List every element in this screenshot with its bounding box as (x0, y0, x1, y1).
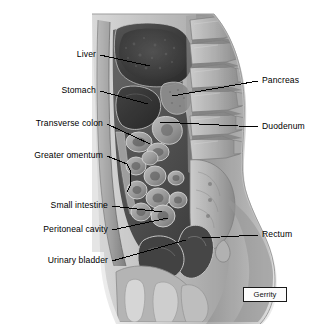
label-pancreas: Pancreas (262, 76, 299, 85)
label-rectum: Rectum (262, 230, 292, 239)
label-small-intestine-text: Small intestine (51, 200, 108, 210)
anatomy-figure: Liver Stomach Transverse colon Greater o… (0, 0, 326, 328)
artist-signature-text: Gerrity (254, 291, 277, 299)
label-small-intestine: Small intestine (0, 201, 108, 210)
label-stomach: Stomach (0, 86, 96, 95)
label-urinary-bladder-text: Urinary bladder (48, 255, 108, 265)
label-duodenum-text: Duodenum (262, 121, 305, 131)
label-greater-omentum-text: Greater omentum (34, 150, 103, 160)
texture-grain (92, 14, 278, 324)
label-liver: Liver (0, 50, 96, 59)
label-stomach-text: Stomach (61, 85, 96, 95)
label-rectum-text: Rectum (262, 229, 292, 239)
label-peritoneal-cavity-text: Peritoneal cavity (43, 224, 108, 234)
label-greater-omentum: Greater omentum (0, 151, 103, 160)
label-transverse-colon-text: Transverse colon (36, 118, 103, 128)
label-peritoneal-cavity: Peritoneal cavity (0, 225, 108, 234)
label-liver-text: Liver (77, 49, 96, 59)
label-duodenum: Duodenum (262, 122, 305, 131)
label-urinary-bladder: Urinary bladder (0, 256, 108, 265)
artist-signature-box: Gerrity (243, 287, 287, 302)
label-pancreas-text: Pancreas (262, 75, 299, 85)
label-transverse-colon: Transverse colon (0, 119, 103, 128)
